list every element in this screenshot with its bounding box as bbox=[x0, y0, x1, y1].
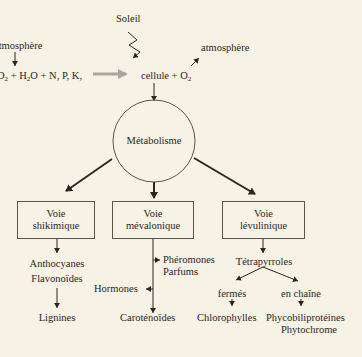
product-lignines: Lignines bbox=[17, 312, 97, 324]
product-phytochrome: Phytochrome bbox=[281, 324, 337, 336]
pathway-box-mevalonique: Voie mévalonique bbox=[112, 201, 194, 239]
cell-output: cellule + O2 bbox=[141, 70, 191, 82]
box-line2: shikimique bbox=[33, 220, 80, 232]
product-hormones: Hormones bbox=[94, 283, 138, 295]
product-tetrapyrroles: Tétrapyrroles bbox=[223, 256, 305, 268]
box-line1: Voie bbox=[46, 208, 65, 220]
product-carotenoides: Caroténoïdes bbox=[120, 312, 175, 324]
arrow-to-shikimique bbox=[66, 159, 112, 191]
atmosphere-left-label: atmosphère bbox=[0, 40, 42, 52]
box-line2: lévulinique bbox=[240, 220, 287, 232]
product-anthocyanes: Anthocyanes bbox=[17, 258, 97, 270]
atmosphere-right-label: atmosphère bbox=[201, 42, 249, 54]
box-line1: Voie bbox=[143, 208, 162, 220]
sun-label: Soleil bbox=[116, 13, 141, 25]
box-line1: Voie bbox=[254, 208, 273, 220]
arrow-to-levulinique bbox=[194, 158, 255, 194]
product-parfums: Parfums bbox=[163, 266, 198, 278]
sun-ray-icon bbox=[128, 32, 140, 58]
product-phycobiliproteines: Phycobiliprotéines bbox=[266, 312, 345, 324]
inputs-formula: O2 + H2O + N, P, K, bbox=[0, 70, 82, 82]
box-line2: mévalonique bbox=[126, 220, 180, 232]
product-chlorophylles: Chlorophylles bbox=[197, 312, 257, 324]
metabolism-label: Métabolisme bbox=[114, 135, 194, 147]
branch-fermes: fermés bbox=[212, 288, 252, 300]
product-pheromones: Phéromones bbox=[163, 254, 215, 266]
pathway-box-shikimique: Voie shikimique bbox=[17, 201, 95, 239]
branch-en-chaine: en chaîne bbox=[270, 288, 332, 300]
pathway-box-levulinique: Voie lévulinique bbox=[222, 201, 305, 239]
arrow-o2-out bbox=[191, 58, 199, 66]
product-flavonoides: Flavonoïdes bbox=[17, 273, 97, 285]
diagram-arrows bbox=[0, 0, 362, 357]
